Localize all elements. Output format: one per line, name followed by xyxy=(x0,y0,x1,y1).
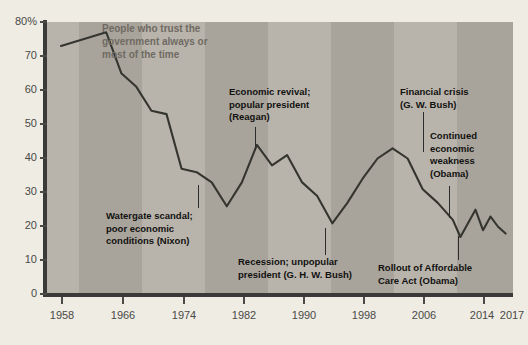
x-axis-line xyxy=(43,293,513,297)
x-tick-label-1982: 1982 xyxy=(232,309,256,321)
leader-line-continued-weakness xyxy=(449,186,450,218)
annotation-reagan: Economic revival; popular president (Rea… xyxy=(229,86,344,124)
leader-line-financial-crisis xyxy=(423,112,424,152)
leader-line-ghw-bush xyxy=(325,228,326,255)
x-tick-mark-2006 xyxy=(423,297,425,304)
annotation-financial-crisis: Financial crisis (G. W. Bush) xyxy=(400,86,500,111)
y-tick-mark xyxy=(40,191,47,193)
x-tick-mark-1998 xyxy=(363,297,365,304)
y-tick-80: 80% xyxy=(0,15,47,29)
x-tick-mark-1966 xyxy=(122,297,124,304)
x-tick-label-1998: 1998 xyxy=(352,309,376,321)
y-tick-label: 0 xyxy=(31,287,37,299)
leader-line-reagan xyxy=(255,127,256,150)
y-tick-20: 20 xyxy=(0,219,47,233)
annotation-watergate: Watergate scandal; poor economic conditi… xyxy=(106,210,226,248)
y-tick-mark xyxy=(40,157,47,159)
y-tick-mark xyxy=(40,89,47,91)
y-tick-label: 80% xyxy=(15,15,37,27)
x-tick-mark-1974 xyxy=(183,297,185,304)
y-tick-label: 40 xyxy=(25,151,37,163)
y-tick-10: 10 xyxy=(0,253,47,267)
y-tick-50: 50 xyxy=(0,117,47,131)
x-tick-mark-1958 xyxy=(61,297,63,304)
y-tick-mark xyxy=(40,55,47,57)
x-tick-label-1974: 1974 xyxy=(172,309,196,321)
y-tick-0: 0 xyxy=(0,287,47,301)
y-tick-mark xyxy=(40,123,47,125)
y-tick-label: 70 xyxy=(25,49,37,61)
x-tick-label-2014: 2014 xyxy=(470,309,494,321)
decade-band xyxy=(205,22,268,295)
annotation-continued-weakness: Continued economic weakness (Obama) xyxy=(430,130,502,180)
y-tick-label: 10 xyxy=(25,253,37,265)
leader-line-aca-rollout xyxy=(458,236,459,260)
leader-line-watergate xyxy=(198,185,199,208)
trust-in-government-chart: 80% 70 60 50 40 30 20 10 0 1958 1966 197… xyxy=(0,0,528,345)
y-tick-40: 40 xyxy=(0,151,47,165)
y-tick-label: 20 xyxy=(25,219,37,231)
y-tick-mark xyxy=(40,293,47,295)
chart-title-note: People who trust the government always o… xyxy=(102,22,262,62)
y-tick-label: 50 xyxy=(25,117,37,129)
x-tick-label-2006: 2006 xyxy=(412,309,436,321)
annotation-ghw-bush: Recession; unpopular president (G. H. W.… xyxy=(238,256,388,281)
x-tick-mark-1990 xyxy=(303,297,305,304)
y-tick-mark xyxy=(40,259,47,261)
y-tick-30: 30 xyxy=(0,185,47,199)
y-tick-label: 60 xyxy=(25,83,37,95)
y-tick-mark xyxy=(40,225,47,227)
x-tick-label-1990: 1990 xyxy=(292,309,316,321)
x-tick-label-2017: 2017 xyxy=(500,309,524,321)
y-tick-label: 30 xyxy=(25,185,37,197)
x-tick-label-1966: 1966 xyxy=(111,309,135,321)
x-tick-mark-2014 xyxy=(483,297,485,304)
y-tick-60: 60 xyxy=(0,83,47,97)
decade-band xyxy=(79,22,142,295)
y-tick-70: 70 xyxy=(0,49,47,63)
x-tick-mark-1982 xyxy=(243,297,245,304)
decade-band xyxy=(331,22,394,295)
x-tick-label-1958: 1958 xyxy=(50,309,74,321)
y-tick-mark xyxy=(40,21,47,23)
annotation-aca-rollout: Rollout of Affordable Care Act (Obama) xyxy=(378,262,514,287)
